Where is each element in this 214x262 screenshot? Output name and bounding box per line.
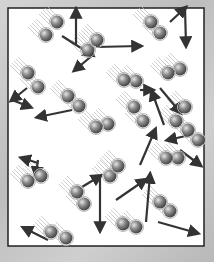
- velocity-arrow: [185, 8, 186, 45]
- atom-sphere: [145, 16, 158, 29]
- atom-sphere: [137, 115, 150, 128]
- gas-molecules-diagram: [0, 0, 214, 262]
- atom-sphere: [162, 67, 175, 80]
- atom-sphere: [179, 101, 192, 114]
- velocity-arrow: [96, 46, 140, 47]
- atom-sphere: [170, 115, 183, 128]
- atom-sphere: [90, 121, 103, 134]
- atom-sphere: [112, 160, 125, 173]
- atom-sphere: [73, 100, 86, 113]
- atom-sphere: [40, 29, 53, 42]
- atom-sphere: [117, 218, 130, 231]
- atom-sphere: [118, 74, 131, 87]
- molecule: [159, 151, 186, 166]
- diagram-frame: [0, 0, 214, 262]
- atom-sphere: [91, 34, 104, 47]
- atom-sphere: [45, 226, 58, 239]
- atom-sphere: [128, 101, 141, 114]
- atom-sphere: [35, 170, 48, 183]
- atom-sphere: [51, 16, 64, 29]
- atom-sphere: [62, 90, 75, 103]
- atom-sphere: [160, 152, 173, 165]
- atom-sphere: [60, 232, 73, 245]
- atom-sphere: [32, 81, 45, 94]
- atom-sphere: [71, 186, 84, 199]
- molecule: [117, 73, 144, 89]
- atom-sphere: [154, 196, 167, 209]
- atom-sphere: [22, 175, 35, 188]
- atom-sphere: [22, 67, 35, 80]
- atom-sphere: [182, 124, 195, 137]
- atom-sphere: [130, 221, 143, 234]
